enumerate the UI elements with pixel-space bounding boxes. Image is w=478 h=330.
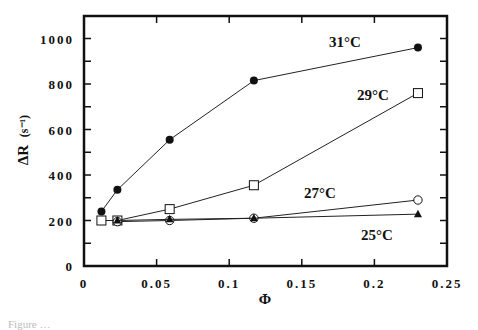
series-25c: 25°C <box>113 210 422 243</box>
data-point-marker <box>97 207 105 215</box>
svg-text:ΔR (s⁻¹): ΔR (s⁻¹) <box>15 115 31 165</box>
x-tick-label: 0.1 <box>218 276 240 291</box>
series-label: 27°C <box>304 185 336 201</box>
x-tick-label: 0.25 <box>432 276 463 291</box>
data-point-marker <box>165 205 174 214</box>
data-point-marker <box>166 136 174 144</box>
x-tick-label: 0 <box>80 276 89 291</box>
y-tick-label: 200 <box>49 214 75 229</box>
x-axis-title: Φ <box>259 291 271 307</box>
series-layer: 31°C29°C27°C25°C <box>97 34 423 243</box>
y-tick-label: 800 <box>49 77 75 92</box>
x-tick-label: 0.2 <box>363 276 385 291</box>
y-tick-label: 1000 <box>40 32 74 47</box>
series-label: 29°C <box>357 87 389 103</box>
data-point-marker <box>414 44 422 52</box>
data-point-marker <box>249 181 258 190</box>
y-axis-title: ΔR (s⁻¹) <box>15 115 31 165</box>
x-tick-label: 0.05 <box>141 276 172 291</box>
data-point-marker <box>97 216 106 225</box>
data-point-marker <box>414 196 422 204</box>
x-tick-label: 0.15 <box>286 276 317 291</box>
y-tick-label: 400 <box>49 168 75 183</box>
series-label: 25°C <box>361 227 393 243</box>
series-29c: 29°C <box>97 87 423 225</box>
data-point-marker <box>413 89 422 98</box>
data-point-marker <box>113 186 121 194</box>
y-axis-title-main: ΔR <box>15 145 31 165</box>
series-line <box>117 214 418 220</box>
data-point-marker <box>414 210 422 218</box>
y-tick-label: 0 <box>66 259 75 274</box>
plot-axes: 0200400600800100000.050.10.150.20.25 <box>40 16 462 291</box>
series-label: 31°C <box>329 34 361 50</box>
series-31c: 31°C <box>97 34 422 215</box>
data-point-marker <box>250 77 258 85</box>
caption-fragment: Figure … <box>8 318 50 330</box>
series-line <box>101 48 418 212</box>
series-line <box>101 93 418 220</box>
y-tick-label: 600 <box>49 123 75 138</box>
y-axis-title-unit: (s⁻¹) <box>17 115 31 137</box>
